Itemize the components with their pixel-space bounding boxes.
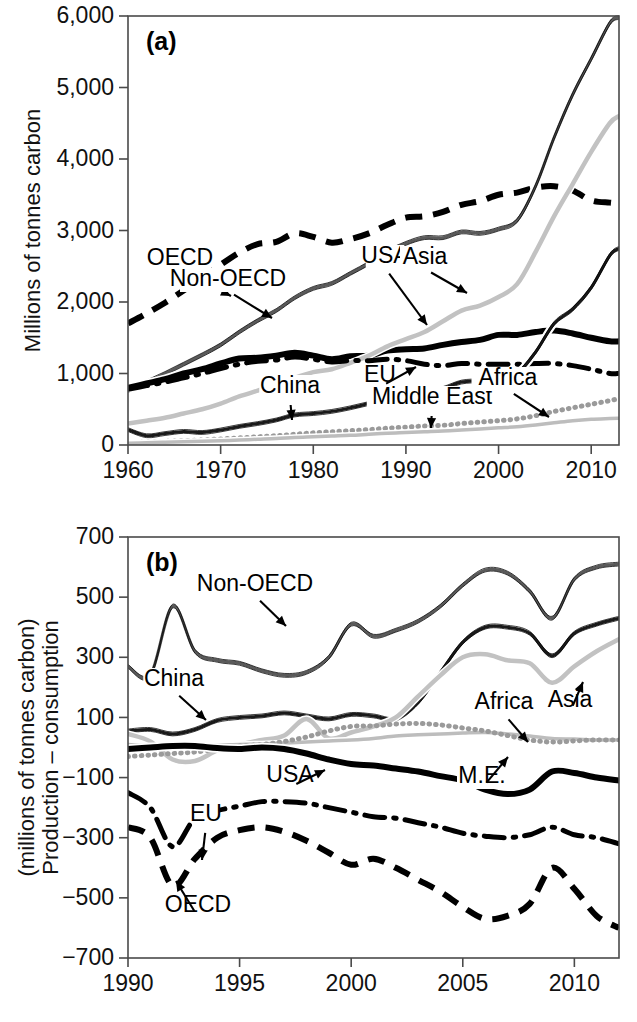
series-annotation-label-china: China (260, 372, 320, 398)
y-tick-label: 3,000 (56, 217, 114, 243)
y-axis-title-line1: Production – consumption (38, 620, 63, 874)
y-axis: 01,0002,0003,0004,0005,0006,000 (56, 2, 128, 457)
y-tick-label: 300 (76, 643, 114, 669)
panel-label: (a) (146, 27, 177, 55)
y-axis-title-line2: (millions of tonnes carbon) (14, 618, 39, 876)
y-tick-label: 700 (76, 523, 114, 549)
panel-a-svg: Millions of tonnes carbon01,0002,0003,00… (0, 0, 637, 511)
series-annotation-label-africa: Africa (479, 364, 538, 390)
series-annotation-label-africa: Africa (475, 688, 534, 714)
series-annotation-label-asia: Asia (548, 686, 593, 712)
chart-panel-b: Production – consumption(millions of ton… (0, 511, 637, 1022)
y-tick-label: 1,000 (56, 360, 114, 386)
annotation-arrowhead-usa (417, 314, 427, 325)
series-annotation-label-oecd: OECD (165, 891, 231, 917)
y-tick-label: −100 (62, 764, 114, 790)
y-tick-label: 0 (101, 431, 114, 457)
panel-b-ylabel: Production – consumption(millions of ton… (14, 618, 63, 876)
series-annotation-label-m-e: M.E. (458, 762, 505, 788)
y-tick-label: 500 (76, 583, 114, 609)
x-tick-label: 1990 (380, 457, 431, 483)
y-tick-label: 5,000 (56, 74, 114, 100)
series-annotation-label-asia: Asia (403, 243, 448, 269)
x-tick-label: 1970 (195, 457, 246, 483)
y-tick-label: 6,000 (56, 2, 114, 28)
x-tick-label: 1995 (214, 970, 265, 996)
x-tick-label: 2000 (473, 457, 524, 483)
series-group (128, 562, 619, 928)
annotation-arrowhead-middle-east (427, 418, 436, 428)
y-axis-title: Millions of tonnes carbon (20, 109, 45, 352)
chart-panel-a: Millions of tonnes carbon01,0002,0003,00… (0, 0, 637, 511)
series-annotation-label-non-oecd: Non-OECD (197, 570, 313, 596)
y-tick-label: −300 (62, 824, 114, 850)
series-annotation-label-usa: USA (266, 761, 314, 787)
x-tick-label: 1980 (288, 457, 339, 483)
x-axis: 19901995200020052010 (102, 958, 600, 996)
panel-label: (b) (146, 548, 178, 576)
y-tick-label: −500 (62, 884, 114, 910)
x-tick-label: 2000 (326, 970, 377, 996)
x-tick-label: 1990 (102, 970, 153, 996)
x-tick-label: 2005 (437, 970, 488, 996)
y-tick-label: 4,000 (56, 145, 114, 171)
x-axis: 196019701980199020002010 (102, 445, 616, 483)
y-axis: −700−500−300−100100300500700 (62, 523, 128, 970)
y-tick-label: −700 (62, 944, 114, 970)
x-tick-label: 2010 (566, 457, 617, 483)
series-annotation-label-eu: EU (190, 800, 222, 826)
series-annotation-label-non-oecd: Non-OECD (170, 265, 286, 291)
panel-b-svg: Production – consumption(millions of ton… (0, 511, 637, 1022)
x-tick-label: 1960 (102, 457, 153, 483)
series-annotation-label-china: China (144, 665, 204, 691)
y-tick-label: 100 (76, 704, 114, 730)
y-tick-label: 2,000 (56, 288, 114, 314)
figure-root: Millions of tonnes carbon01,0002,0003,00… (0, 0, 637, 1022)
x-tick-label: 2010 (549, 970, 600, 996)
